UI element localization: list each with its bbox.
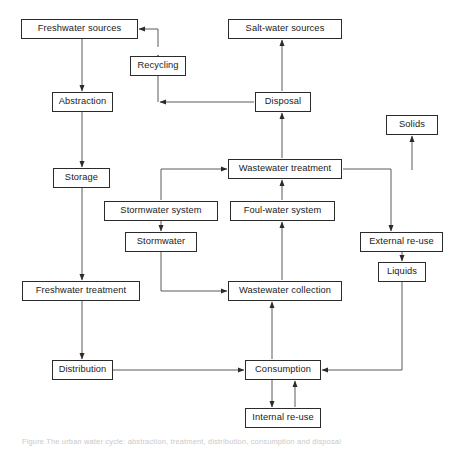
node-label: Stormwater system bbox=[120, 206, 201, 215]
node-disposal[interactable]: Disposal bbox=[255, 92, 311, 112]
node-freshwater-treatment[interactable]: Freshwater treatment bbox=[22, 281, 140, 301]
node-label: Foul-water system bbox=[244, 206, 322, 215]
node-label: Abstraction bbox=[59, 97, 107, 106]
node-abstraction[interactable]: Abstraction bbox=[52, 92, 113, 112]
flowchart-diagram: Freshwater sources Salt-water sources Re… bbox=[0, 0, 458, 450]
node-label: External re-use bbox=[369, 237, 434, 246]
connector-stormwater-to-wastewater-collection bbox=[161, 252, 227, 291]
node-wastewater-treatment[interactable]: Wastewater treatment bbox=[228, 159, 342, 179]
node-label: Consumption bbox=[255, 365, 311, 374]
node-label: Salt-water sources bbox=[246, 24, 325, 33]
node-label: Storage bbox=[65, 173, 98, 182]
node-stormwater-system[interactable]: Stormwater system bbox=[104, 201, 218, 221]
node-freshwater-sources[interactable]: Freshwater sources bbox=[21, 19, 138, 39]
node-label: Wastewater treatment bbox=[239, 164, 332, 173]
node-stormwater[interactable]: Stormwater bbox=[125, 232, 197, 252]
connector-stormwater-system-to-wastewater-treatment bbox=[161, 169, 227, 200]
node-distribution[interactable]: Distribution bbox=[52, 360, 113, 380]
node-label: Recycling bbox=[137, 61, 178, 70]
node-foul-water-system[interactable]: Foul-water system bbox=[230, 201, 335, 221]
node-label: Stormwater bbox=[137, 237, 186, 246]
node-external-re-use[interactable]: External re-use bbox=[360, 232, 443, 252]
node-consumption[interactable]: Consumption bbox=[245, 360, 321, 380]
connector-wastewater-treatment-to-external-re-use bbox=[343, 169, 391, 231]
node-label: Liquids bbox=[387, 267, 417, 276]
connector-recycling-elbow-to-freshwater-sources bbox=[139, 29, 158, 47]
node-internal-re-use[interactable]: Internal re-use bbox=[245, 408, 321, 428]
node-label: Disposal bbox=[265, 97, 301, 106]
node-label: Freshwater treatment bbox=[36, 286, 126, 295]
node-label: Distribution bbox=[59, 365, 107, 374]
node-liquids[interactable]: Liquids bbox=[378, 262, 426, 282]
node-label: Internal re-use bbox=[252, 413, 313, 422]
node-solids[interactable]: Solids bbox=[386, 115, 438, 135]
node-label: Wastewater collection bbox=[239, 286, 331, 295]
node-recycling[interactable]: Recycling bbox=[130, 56, 186, 76]
node-storage[interactable]: Storage bbox=[53, 168, 110, 188]
node-salt-water-sources[interactable]: Salt-water sources bbox=[228, 19, 342, 39]
node-label: Solids bbox=[399, 120, 425, 129]
flowchart-connectors bbox=[0, 0, 458, 450]
node-wastewater-collection[interactable]: Wastewater collection bbox=[228, 281, 342, 301]
figure-caption: Figure The urban water cycle: abstractio… bbox=[22, 437, 341, 446]
node-label: Freshwater sources bbox=[38, 24, 121, 33]
